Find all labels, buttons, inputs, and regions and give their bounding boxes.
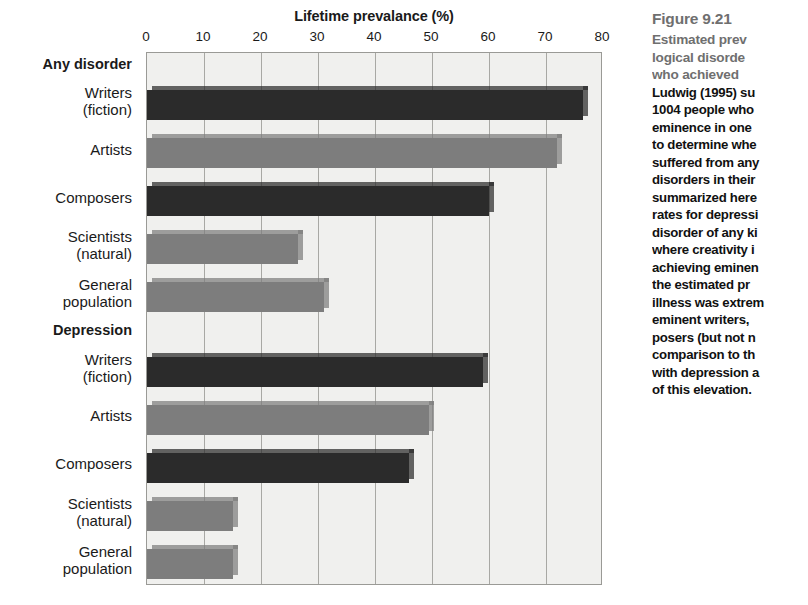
caption-body-text: Ludwig (1995) su1004 people whoeminence … [652, 84, 808, 399]
caption-body-line: to determine whe [652, 136, 808, 154]
bar-side-bevel [483, 353, 488, 383]
bar [147, 278, 329, 312]
y-group-label: Depression [53, 322, 132, 339]
bar [147, 86, 588, 120]
bar-row [147, 490, 601, 538]
bar-row [147, 394, 601, 442]
caption-body-line: the estimated pr [652, 276, 808, 294]
caption-body-line: disorder of any ki [652, 224, 808, 242]
bar-face [147, 357, 483, 387]
label-line-2: population [63, 560, 132, 577]
chart-title: Lifetime prevalance (%) [146, 8, 602, 24]
label-line-1: Writers [85, 351, 132, 368]
caption-body-line: rates for depressi [652, 206, 808, 224]
x-tick-label: 70 [537, 29, 552, 44]
bar-face [147, 282, 324, 312]
caption-body-line: illness was extrem [652, 294, 808, 312]
label-line-1: Scientists [68, 495, 132, 512]
bar [147, 134, 562, 168]
bar-row [147, 271, 601, 319]
label-line-1: Artists [90, 407, 132, 424]
label-line-1: General [79, 543, 132, 560]
y-category-label: Composers [55, 455, 132, 472]
bar-row [147, 442, 601, 490]
y-category-label: Generalpopulation [63, 276, 132, 310]
bar-face [147, 549, 233, 579]
bar-side-bevel [429, 401, 434, 431]
bar [147, 545, 238, 579]
caption-body-line: where creativity i [652, 241, 808, 259]
caption-body-line: eminence in one [652, 119, 808, 137]
label-line-2: (natural) [68, 245, 132, 262]
x-tick-label: 50 [423, 29, 438, 44]
bar-row [147, 538, 601, 586]
label-line-2: (fiction) [83, 368, 132, 385]
bar-side-bevel [324, 278, 329, 308]
label-line-1: Scientists [68, 228, 132, 245]
caption-body-line: achieving eminen [652, 259, 808, 277]
y-category-label: Composers [55, 189, 132, 206]
bar-row [147, 346, 601, 394]
x-tick-label: 80 [594, 29, 609, 44]
label-line-1: Any disorder [43, 56, 132, 72]
bar-row [147, 223, 601, 271]
caption-lead-line: logical disorde [652, 49, 808, 67]
bar-face [147, 501, 233, 531]
caption-lead-line: who achieved [652, 66, 808, 84]
x-tick-label: 0 [142, 29, 150, 44]
label-line-1: Artists [90, 141, 132, 158]
caption-body-line: posers (but not n [652, 329, 808, 347]
bar-side-bevel [298, 230, 303, 260]
bar-face [147, 405, 429, 435]
bar [147, 401, 434, 435]
caption-body-line: eminent writers, [652, 311, 808, 329]
label-line-1: Composers [55, 455, 132, 472]
y-category-label: Writers(fiction) [83, 351, 132, 385]
caption-body-line: of this elevation. [652, 381, 808, 399]
figure-panel: Lifetime prevalance (%) 0102030405060708… [0, 0, 614, 605]
bar [147, 497, 238, 531]
y-group-label: Any disorder [43, 56, 132, 73]
bar [147, 449, 414, 483]
label-line-2: (fiction) [83, 101, 132, 118]
bar-row [147, 127, 601, 175]
bar [147, 182, 494, 216]
x-tick-label: 10 [195, 29, 210, 44]
figure-caption: Figure 9.21 Estimated prevlogical disord… [652, 10, 808, 605]
x-tick-label: 20 [252, 29, 267, 44]
caption-body-line: Ludwig (1995) su [652, 84, 808, 102]
bar-side-bevel [489, 182, 494, 212]
plot-area [146, 52, 602, 585]
label-line-1: General [79, 276, 132, 293]
bar-row [147, 175, 601, 223]
y-category-label: Artists [90, 407, 132, 424]
bar-side-bevel [409, 449, 414, 479]
caption-figure-number: Figure 9.21 [652, 10, 808, 28]
bar-face [147, 453, 409, 483]
y-category-label: Generalpopulation [63, 543, 132, 577]
bar [147, 353, 488, 387]
label-line-1: Writers [85, 84, 132, 101]
bar-side-bevel [583, 86, 588, 116]
bar-side-bevel [557, 134, 562, 164]
caption-body-line: with depression a [652, 364, 808, 382]
y-category-label: Writers(fiction) [83, 84, 132, 118]
x-tick-label: 30 [309, 29, 324, 44]
label-line-1: Depression [53, 322, 132, 338]
bar-face [147, 138, 557, 168]
y-category-label: Artists [90, 141, 132, 158]
bar-side-bevel [233, 497, 238, 527]
caption-body-line: disorders in their [652, 171, 808, 189]
label-line-2: population [63, 293, 132, 310]
x-axis-tick-labels: 01020304050607080 [146, 29, 602, 49]
caption-body-line: suffered from any [652, 154, 808, 172]
bar-side-bevel [233, 545, 238, 575]
y-category-label: Scientists(natural) [68, 228, 132, 262]
x-tick-label: 60 [480, 29, 495, 44]
bar-row [147, 79, 601, 127]
bar [147, 230, 303, 264]
bar-face [147, 90, 583, 120]
x-tick-label: 40 [366, 29, 381, 44]
y-axis-category-labels: Any disorderWriters(fiction)ArtistsCompo… [0, 52, 140, 585]
caption-body-line: summarized here [652, 189, 808, 207]
